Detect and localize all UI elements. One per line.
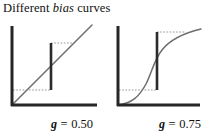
caption-right-operator: =	[169, 117, 176, 131]
caption-left-value: 0.50	[71, 117, 93, 131]
figure-different-bias-curves: Different bias curves g = 0.50	[0, 0, 208, 132]
chart-panel-right: g = 0.75	[106, 20, 206, 132]
figure-title: Different bias curves	[3, 1, 110, 15]
figure-title-emphasis: bias	[53, 1, 74, 15]
figure-title-prefix: Different	[3, 1, 53, 15]
caption-right: g = 0.75	[106, 117, 208, 132]
plot-area-left	[0, 20, 100, 115]
caption-left: g = 0.50	[0, 117, 122, 132]
curve-sigmoid	[118, 29, 201, 105]
chart-panel-left: g = 0.50	[0, 20, 100, 132]
caption-right-value: 0.75	[179, 117, 201, 131]
caption-left-operator: =	[61, 117, 68, 131]
plot-area-right	[106, 20, 206, 115]
figure-title-suffix: curves	[74, 1, 110, 15]
